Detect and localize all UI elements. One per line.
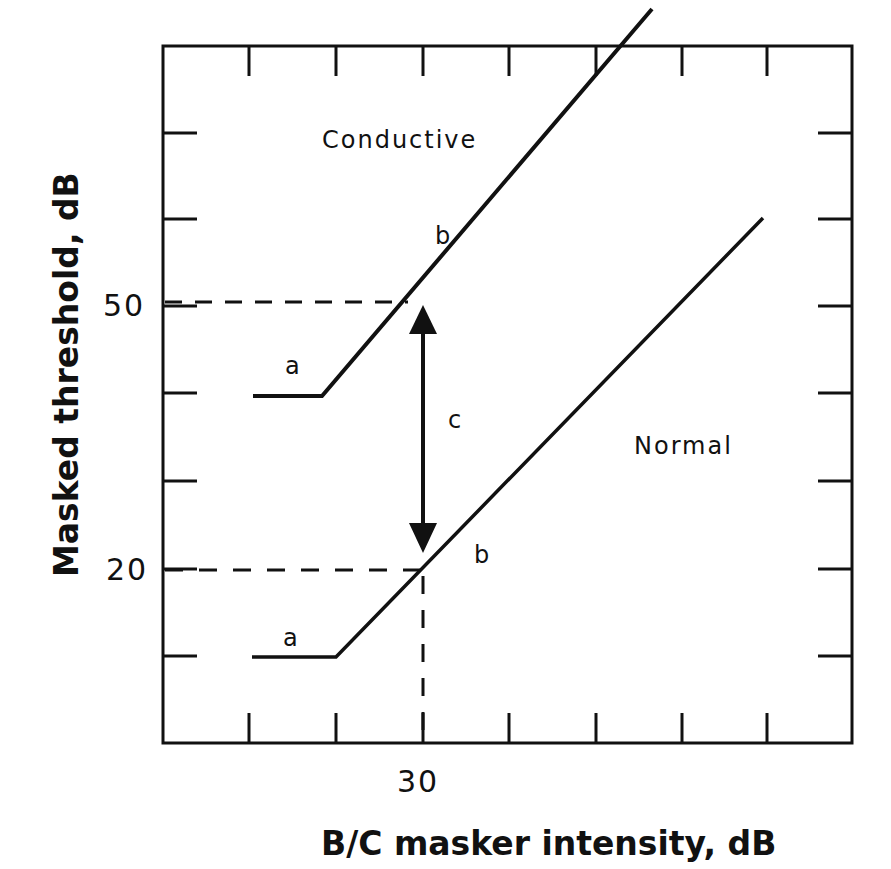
label-a-upper: a bbox=[285, 352, 300, 380]
chart: Conductive Normal a b a b c 50 20 30 B/C… bbox=[0, 0, 891, 869]
right-ticks bbox=[818, 133, 852, 656]
conductive-curve bbox=[253, 9, 652, 396]
label-b-lower: b bbox=[474, 541, 489, 569]
double-arrow-c bbox=[409, 305, 437, 553]
label-a-lower: a bbox=[283, 624, 298, 652]
label-conductive: Conductive bbox=[322, 126, 477, 154]
y-tick-label-50: 50 bbox=[103, 288, 145, 323]
x-tick-label-30: 30 bbox=[397, 764, 439, 799]
left-ticks bbox=[163, 133, 197, 656]
x-axis-label: B/C masker intensity, dB bbox=[321, 824, 776, 863]
bottom-ticks bbox=[249, 713, 767, 743]
y-axis-label: Masked threshold, dB bbox=[47, 172, 86, 577]
label-c: c bbox=[448, 406, 461, 434]
label-normal: Normal bbox=[634, 432, 733, 460]
label-b-upper: b bbox=[435, 222, 450, 250]
top-ticks bbox=[249, 46, 767, 76]
y-tick-label-20: 20 bbox=[106, 552, 148, 587]
